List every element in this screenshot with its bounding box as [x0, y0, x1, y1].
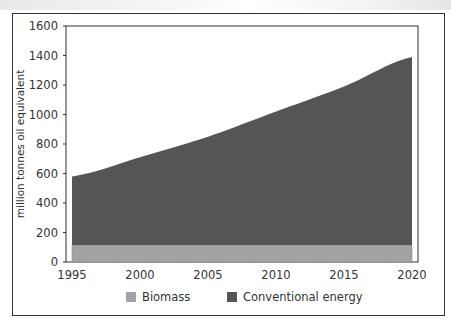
- legend-label-biomass: Biomass: [142, 290, 190, 304]
- y-tick-label: 200: [36, 226, 58, 240]
- y-axis-label: million tonnes oil equivalent: [14, 70, 26, 219]
- x-tick-label: 2010: [261, 268, 290, 282]
- legend: Biomass Conventional energy: [126, 290, 363, 304]
- y-tick-label: 1400: [29, 49, 58, 63]
- legend-item-conventional-energy: Conventional energy: [227, 290, 363, 304]
- y-tick-label: 1200: [29, 78, 58, 92]
- x-axis-ticks: 199520002005201020152020: [57, 268, 426, 282]
- x-tick-label: 2015: [329, 268, 358, 282]
- y-tick-label: 600: [36, 167, 58, 181]
- area-chart: 02004006008001000120014001600 1995200020…: [0, 0, 451, 327]
- legend-item-biomass: Biomass: [126, 290, 190, 304]
- x-tick-label: 1995: [57, 268, 86, 282]
- legend-swatch-biomass: [126, 292, 136, 302]
- y-tick-label: 1000: [29, 108, 58, 122]
- x-tick-label: 2005: [193, 268, 222, 282]
- y-tick-label: 800: [36, 137, 58, 151]
- y-tick-label: 400: [36, 196, 58, 210]
- area-biomass: [72, 245, 412, 262]
- legend-swatch-conventional-energy: [227, 292, 237, 302]
- y-axis-ticks: 02004006008001000120014001600: [29, 19, 66, 269]
- x-tick-label: 2020: [397, 268, 426, 282]
- y-tick-label: 1600: [29, 19, 58, 33]
- x-tick-label: 2000: [125, 268, 154, 282]
- y-tick-label: 0: [51, 255, 58, 269]
- legend-label-conventional-energy: Conventional energy: [243, 290, 363, 304]
